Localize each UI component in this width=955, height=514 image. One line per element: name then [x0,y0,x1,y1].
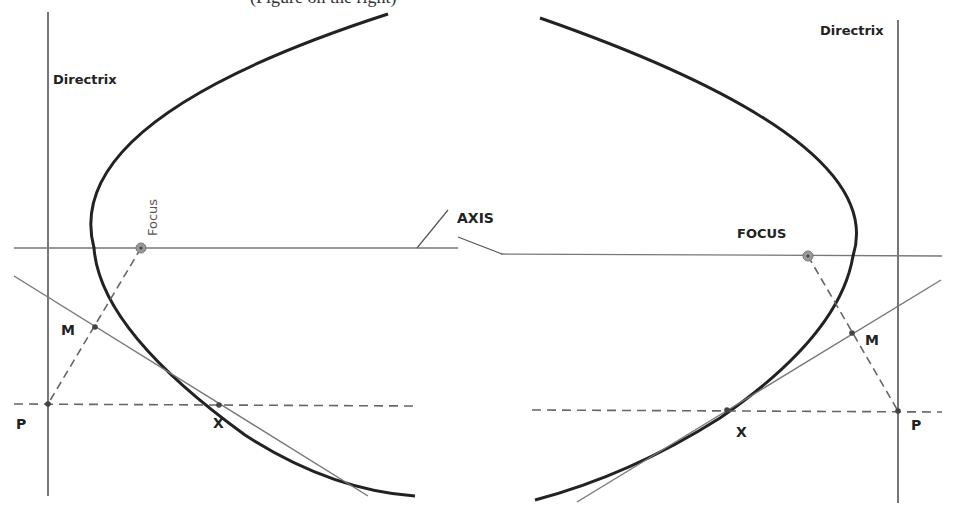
left-p-label: P [16,416,26,432]
right-m-point [849,330,855,336]
right-focus-label: FOCUS [737,226,786,241]
left-p-point [45,401,51,407]
left-focus-point-center [139,246,142,249]
right-x-point [724,407,730,413]
right-p-label: P [911,417,921,433]
right-p-point [895,408,901,414]
right-x-label: X [736,424,747,440]
right-horizontal-dashed [532,410,942,412]
left-m-label: M [61,322,75,338]
left-tangent-line [14,276,368,496]
right-axis-line [501,254,942,256]
left-m-point [92,324,98,330]
left-diagram: Directrix Focus AXIS M P X [14,12,494,496]
right-diagram: Directrix FOCUS M P X [458,18,942,503]
axis-label: AXIS [457,210,494,226]
left-x-label: X [213,415,224,431]
left-horizontal-dashed [14,404,415,406]
right-m-label: M [865,332,879,348]
axis-leader-left [417,210,448,248]
left-focus-label: Focus [145,199,160,236]
left-directrix-label: Directrix [53,72,117,87]
right-directrix-label: Directrix [820,23,884,38]
left-x-point [216,402,222,408]
right-focus-point-center [806,254,809,257]
parabola-diagram: Directrix Focus AXIS M P X Directrix FOC… [0,0,955,514]
axis-leader-right [458,237,502,254]
